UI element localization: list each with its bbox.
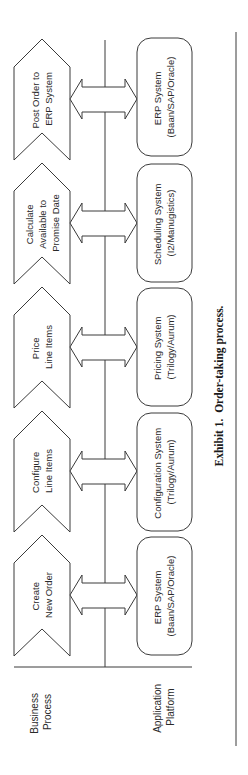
system-line: ERP System [152, 71, 163, 125]
process-line: Promise Date [50, 194, 61, 252]
order-taking-diagram: Post Order to ERP System ERP System (Baa… [0, 0, 248, 775]
step-calculate-atp: Calculate Available to Promise Date Sche… [14, 163, 192, 284]
process-line: Create [30, 582, 41, 611]
process-line: Available to [37, 200, 48, 249]
step-post-order: Post Order to ERP System ERP System (Baa… [14, 38, 192, 160]
system-line: (Baan/SAP/Oracle) [165, 556, 176, 637]
system-line: (Trilogy/Aurum) [165, 314, 176, 379]
bidirectional-arrow-icon [70, 203, 137, 243]
process-line: Price [30, 337, 41, 359]
process-chevron-create-order [14, 535, 70, 656]
lane-label-line: Platform [165, 688, 176, 725]
step-create-new-order: Create New Order ERP System (Baan/SAP/Or… [14, 535, 192, 656]
step-configure-line-items: Configure Line Items Configuration Syste… [14, 411, 192, 532]
bidirectional-arrow-icon [70, 451, 137, 491]
process-line: Configure [30, 452, 41, 493]
system-line: Pricing System [152, 317, 163, 380]
lane-label-line: Process [42, 694, 53, 730]
process-line: Calculate [24, 205, 35, 245]
system-line: (I2/Manugistics) [165, 189, 176, 256]
bidirectional-arrow-icon [70, 575, 137, 615]
step-price-line-items: Price Line Items Pricing System (Trilogy… [14, 287, 192, 408]
process-line: Line Items [43, 325, 54, 369]
process-line: Line Items [43, 449, 54, 493]
process-line: Post Order to [30, 72, 41, 129]
process-chevron-configure [14, 411, 70, 532]
process-line: ERP System [43, 72, 54, 126]
system-line: (Baan/SAP/Oracle) [165, 57, 176, 138]
system-line: Configuration System [152, 428, 163, 519]
lane-label-line: Business [29, 693, 40, 734]
system-line: Scheduling System [152, 184, 163, 265]
bidirectional-arrow-icon [70, 327, 137, 367]
process-label-calculate-atp: Calculate Available to Promise Date [24, 194, 61, 252]
lane-label-business-process: Business Process [29, 690, 53, 733]
system-line: ERP System [152, 570, 163, 624]
exhibit-caption: Exhibit 1. Order-taking process. [213, 305, 226, 466]
process-chevron-post-order [14, 39, 70, 160]
process-chevron-price [14, 287, 70, 408]
process-line: New Order [43, 572, 54, 618]
lane-label-line: Application [152, 684, 163, 733]
lane-label-application-platform: Application Platform [152, 681, 176, 733]
system-line: (Trilogy/Aurum) [165, 439, 176, 504]
bidirectional-arrow-icon [70, 79, 137, 119]
